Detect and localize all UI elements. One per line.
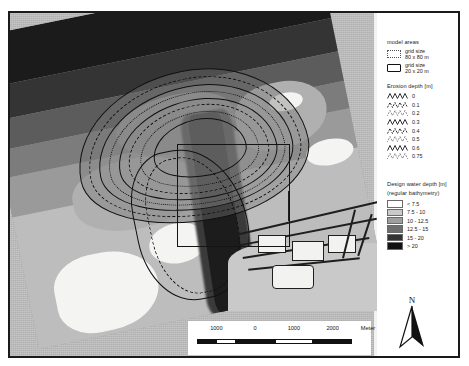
legend-label-grid-80m: grid size 80 x 80 m [405, 48, 429, 60]
legend-erosion-row: 0.3 [387, 118, 458, 127]
legend-water-depth-row: > 20 [387, 242, 458, 250]
dotted-rectangle-icon [387, 50, 401, 58]
legend-erosion-value: 0.3 [412, 119, 420, 125]
scale-seg-5 [313, 339, 352, 344]
scale-bar-container: 1000010002000Meter [188, 321, 371, 355]
erosion-contour-icon [387, 144, 408, 152]
legend-erosion-row: 0.6 [387, 144, 458, 153]
legend-erosion-row: 0.2 [387, 109, 458, 118]
legend-erosion-row: 0.5 [387, 135, 458, 144]
legend-water-depth-label: 15 - 20 [407, 235, 424, 241]
north-arrow: N [395, 295, 429, 356]
legend-water-depth-label: 10 - 12.5 [407, 218, 428, 224]
erosion-contour-icon [387, 127, 408, 135]
grid-80m-line2: 80 x 80 m [405, 54, 429, 60]
legend-erosion-row: 0.75 [387, 152, 458, 161]
legend-erosion-value: 0.2 [412, 110, 420, 116]
scale-seg-3 [236, 339, 275, 344]
legend-water-depth-swatch [387, 200, 403, 207]
legend-water-depth-label: > 20 [407, 243, 418, 249]
scale-bar-unit: Meter [361, 325, 375, 331]
legend-erosion-row: 0.4 [387, 126, 458, 135]
legend-water-depth-label: 12.5 - 15 [407, 226, 428, 232]
legend-water-depth-swatch [387, 242, 403, 249]
legend-water-depth-row: 12.5 - 15 [387, 225, 458, 233]
scale-bar-tick-label: 1000 [210, 325, 222, 331]
legend-title-erosion-depth: Erosion depth [m] [387, 83, 458, 89]
legend-title-water-depth-2: (regular bathymetry) [387, 190, 458, 196]
legend-spacer-2 [387, 161, 458, 181]
legend-erosion-row: 0.1 [387, 101, 458, 110]
legend-item-grid-80m: grid size 80 x 80 m [387, 48, 458, 60]
harbour-basin-2 [292, 241, 324, 261]
legend-erosion-value: 0.5 [412, 136, 420, 142]
legend-water-depth-swatch [387, 217, 403, 224]
legend-water-depth-swatch [387, 234, 403, 241]
legend-water-depth-label: < 7.5 [407, 201, 419, 207]
legend-title-model-areas: model areas [387, 39, 458, 45]
scale-bar-graphic [197, 339, 352, 344]
legend-water-depth-row: 15 - 20 [387, 233, 458, 241]
solid-rectangle-icon [387, 64, 401, 72]
legend-water-depth-rows: < 7.57.5 - 1010 - 12.512.5 - 1515 - 20> … [387, 200, 458, 250]
scale-seg-2 [216, 339, 235, 344]
legend-erosion-row: 0 [387, 92, 458, 101]
legend-label-grid-20m: grid size 20 x 20 m [405, 62, 429, 74]
scale-bar-labels: 1000010002000Meter [188, 324, 371, 334]
legend-water-depth-row: 7.5 - 10 [387, 208, 458, 216]
map-frame: model areas grid size 80 x 80 m grid siz… [8, 11, 460, 358]
harbour-basin-4 [272, 265, 314, 289]
legend-erosion-value: 0.4 [412, 128, 420, 134]
legend-water-depth-swatch [387, 209, 403, 216]
legend-water-depth-label: 7.5 - 10 [407, 209, 425, 215]
legend-water-depth-row: 10 - 12.5 [387, 217, 458, 225]
legend-erosion-rows: 00.10.20.30.40.50.60.75 [387, 92, 458, 161]
model-area-box-20m [177, 144, 290, 247]
erosion-contour-icon [387, 135, 408, 143]
map-canvas: model areas grid size 80 x 80 m grid siz… [10, 13, 458, 356]
legend-spacer-1 [387, 76, 458, 83]
grid-20m-line2: 20 x 20 m [405, 68, 429, 74]
legend-item-grid-20m: grid size 20 x 20 m [387, 62, 458, 74]
harbour-basin-3 [328, 235, 356, 253]
scale-bar-tick-label: 0 [254, 325, 257, 331]
legend-erosion-value: 0 [412, 93, 415, 99]
legend-water-depth-swatch [387, 225, 403, 232]
map-figure: model areas grid size 80 x 80 m grid siz… [0, 0, 469, 366]
legend-erosion-value: 0.6 [412, 145, 420, 151]
legend-title-water-depth-1: Design water depth [m] [387, 181, 458, 187]
legend-water-depth-row: < 7.5 [387, 200, 458, 208]
scale-seg-4 [275, 339, 314, 344]
scale-seg-1 [197, 339, 216, 344]
erosion-contour-icon [387, 118, 408, 126]
erosion-contour-icon [387, 92, 408, 100]
scale-bar-tick-label: 1000 [288, 325, 300, 331]
erosion-contour-icon [387, 109, 408, 117]
legend-erosion-value: 0.75 [412, 153, 423, 159]
north-arrow-icon [399, 305, 425, 349]
north-arrow-label: N [395, 295, 429, 305]
scale-bar-tick-label: 2000 [326, 325, 338, 331]
erosion-contour-icon [387, 152, 408, 160]
legend-erosion-value: 0.1 [412, 102, 420, 108]
erosion-contour-icon [387, 101, 408, 109]
